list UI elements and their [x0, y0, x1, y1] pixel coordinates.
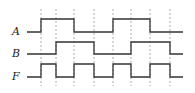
signal-label-a: A [12, 26, 20, 37]
signal-label-b: B [12, 48, 20, 59]
waveform-b [27, 42, 183, 54]
waveform-f [27, 64, 183, 77]
waveform-a [27, 19, 183, 32]
waveforms [27, 19, 183, 77]
timing-diagram [0, 0, 195, 93]
signal-label-f: F [12, 71, 20, 82]
